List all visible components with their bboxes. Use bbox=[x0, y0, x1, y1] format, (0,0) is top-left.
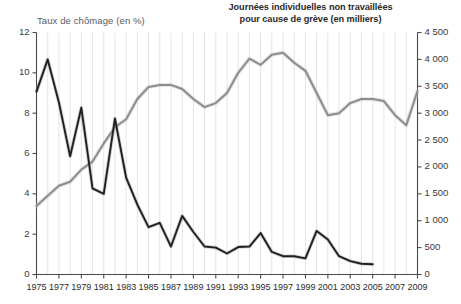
right-axis-tick-label: 500 bbox=[425, 241, 441, 252]
right-axis-tick-label: 1 000 bbox=[425, 214, 449, 225]
right-axis-tick-label: 3 000 bbox=[425, 107, 449, 118]
right-axis-tick-label: 0 bbox=[425, 268, 430, 279]
left-axis-tick-label: 12 bbox=[0, 26, 30, 37]
left-axis-tick-label: 8 bbox=[0, 107, 30, 118]
left-axis-tick-label: 0 bbox=[0, 268, 30, 279]
x-axis-tick-label: 2009 bbox=[402, 282, 434, 292]
left-axis-tick-label: 2 bbox=[0, 228, 30, 239]
right-axis-tick-label: 2 500 bbox=[425, 134, 449, 145]
chart-container: Taux de chômage (en %) Journées individu… bbox=[0, 0, 461, 304]
left-axis-tick-label: 4 bbox=[0, 187, 30, 198]
right-axis-tick-label: 1 500 bbox=[425, 187, 449, 198]
left-axis-tick-label: 10 bbox=[0, 66, 30, 77]
right-axis-tick-label: 4 500 bbox=[425, 26, 449, 37]
chart-plot bbox=[0, 0, 461, 304]
left-axis-tick-label: 6 bbox=[0, 147, 30, 158]
gridlines bbox=[37, 33, 418, 275]
right-axis-tick-label: 2 000 bbox=[425, 160, 449, 171]
right-axis-tick-label: 3 500 bbox=[425, 80, 449, 91]
right-axis-tick-label: 4 000 bbox=[425, 53, 449, 64]
